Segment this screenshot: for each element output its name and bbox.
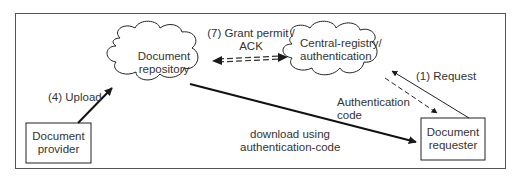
auth-code-label-line2: code bbox=[337, 109, 410, 122]
download-label-line2: authentication-code bbox=[240, 141, 340, 154]
repository-label: Document repository bbox=[136, 50, 192, 76]
grant-permit-label-line2: ACK bbox=[206, 40, 296, 53]
auth-code-label-line1: Authentication bbox=[337, 96, 410, 109]
upload-label: (4) Upload bbox=[48, 91, 102, 104]
provider-label: Document provider bbox=[26, 130, 91, 156]
request-label: (1) Request bbox=[416, 70, 476, 83]
provider-label-line2: provider bbox=[26, 143, 91, 156]
registry-label-line1: Central-registry/ bbox=[300, 37, 382, 50]
registry-label-line2: authentication bbox=[300, 50, 382, 63]
download-label: download using authentication-code bbox=[240, 128, 340, 154]
requester-label: Document requester bbox=[421, 126, 485, 152]
repository-label-line2: repository bbox=[136, 63, 192, 76]
grant-permit-label-line1: (7) Grant permit / bbox=[206, 27, 296, 40]
grant-permit-label: (7) Grant permit / ACK bbox=[206, 27, 296, 53]
requester-label-line1: Document bbox=[421, 126, 485, 139]
provider-label-line1: Document bbox=[26, 130, 91, 143]
repository-label-line1: Document bbox=[136, 50, 192, 63]
requester-label-line2: requester bbox=[421, 139, 485, 152]
download-label-line1: download using bbox=[240, 128, 340, 141]
grant-permit-arrow bbox=[212, 53, 288, 65]
registry-label: Central-registry/ authentication bbox=[300, 37, 382, 63]
auth-code-label: Authentication code bbox=[337, 96, 410, 122]
